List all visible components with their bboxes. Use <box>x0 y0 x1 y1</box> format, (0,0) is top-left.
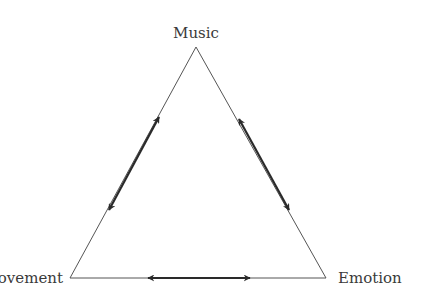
arrow-music-movement <box>109 117 159 210</box>
triangle-outline <box>70 47 326 278</box>
arrow-music-emotion <box>239 119 289 210</box>
triangle-diagram: Music Movement Emotion <box>0 0 434 308</box>
node-label-movement: Movement <box>0 269 63 287</box>
node-label-emotion: Emotion <box>338 269 402 287</box>
node-label-music: Music <box>173 24 219 42</box>
